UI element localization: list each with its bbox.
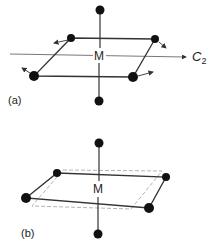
metal-label: M [93,182,103,196]
displacement-arrow [138,72,153,76]
metal-label: M [94,49,104,63]
panel-a: M C2 (a) [8,6,206,107]
atom-axial-bottom [94,230,103,239]
atom-equatorial [21,193,31,203]
panel-label-a: (a) [8,94,21,106]
atom-axial-bottom [95,97,104,106]
atom-axial-top [95,139,104,148]
atom-equatorial [144,203,154,213]
atom-equatorial [67,34,75,42]
panel-label-b: (b) [21,227,34,239]
atom-equatorial [53,169,61,177]
panel-b: M (b) [21,139,170,240]
c2-label: C2 [192,49,206,66]
diagram-canvas: M C2 (a) M (b) [0,0,222,251]
atom-equatorial [151,35,159,43]
atom-equatorial [162,173,170,181]
displacement-arrow [159,42,166,48]
displacement-arrow [22,68,30,73]
atom-equatorial [29,71,39,81]
atom-axial-top [96,6,105,15]
atom-equatorial [128,72,138,82]
